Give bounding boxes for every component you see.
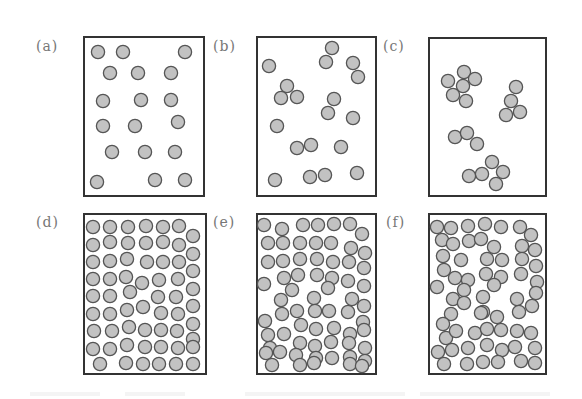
particle [116, 45, 129, 58]
particle [529, 259, 542, 272]
particle [154, 306, 167, 319]
particle [103, 66, 116, 79]
particle [514, 354, 527, 367]
particle-group-c [441, 65, 526, 190]
particle [171, 115, 184, 128]
particle [508, 340, 521, 353]
faint-caption-artifact [125, 392, 185, 396]
particle [515, 252, 528, 265]
particle [261, 328, 274, 341]
particle [154, 340, 167, 353]
particle [119, 356, 132, 369]
particle [325, 41, 338, 54]
particle [343, 217, 356, 230]
particle [487, 240, 500, 253]
particle [474, 306, 487, 319]
particle [120, 303, 133, 316]
particle [460, 357, 473, 370]
particle-group-b [262, 41, 364, 186]
particle [310, 268, 323, 281]
particle [186, 357, 199, 370]
particle [461, 341, 474, 354]
faint-caption-artifact [30, 392, 100, 396]
particle [123, 285, 136, 298]
particle [86, 272, 99, 285]
particle [357, 323, 370, 336]
particle [86, 289, 99, 302]
particle [346, 56, 359, 69]
particle [355, 359, 368, 372]
particle [178, 45, 191, 58]
particle [358, 341, 371, 354]
particle [171, 272, 184, 285]
particle [257, 277, 270, 290]
particle [121, 220, 134, 233]
particle [103, 307, 116, 320]
particle [480, 322, 493, 335]
particle [327, 217, 340, 230]
particle [86, 255, 99, 268]
particle [478, 217, 491, 230]
particle [321, 281, 334, 294]
particle [342, 336, 355, 349]
particle [324, 335, 337, 348]
particle [528, 356, 541, 369]
particle [495, 253, 508, 266]
particle [459, 94, 472, 107]
particle [139, 236, 152, 249]
particle [258, 314, 271, 327]
particle [270, 119, 283, 132]
particle [296, 218, 309, 231]
particle [308, 304, 321, 317]
particle [139, 219, 152, 232]
particle [186, 340, 199, 353]
particle [151, 290, 164, 303]
particle [138, 323, 151, 336]
faint-caption-artifact [420, 392, 550, 396]
particle [309, 322, 322, 335]
particle [309, 236, 322, 249]
particle [91, 45, 104, 58]
particle [265, 358, 278, 371]
particle-group-e [257, 217, 371, 372]
particle [446, 88, 459, 101]
particle [431, 345, 444, 358]
particle [327, 321, 340, 334]
particle [103, 254, 116, 267]
particle [358, 246, 371, 259]
particle [528, 243, 541, 256]
particle [136, 357, 149, 370]
particle [446, 237, 459, 250]
particle [140, 255, 153, 268]
particle [491, 355, 504, 368]
particle [138, 145, 151, 158]
particle [290, 304, 303, 317]
particle [509, 80, 522, 93]
particle [290, 90, 303, 103]
particle [341, 274, 354, 287]
particle-group-a [90, 45, 191, 188]
particle-group-d [86, 219, 199, 370]
particle [334, 140, 347, 153]
particle [515, 239, 528, 252]
particle [504, 94, 517, 107]
particle [86, 342, 99, 355]
particle [457, 296, 470, 309]
particle [357, 279, 370, 292]
particle [105, 324, 118, 337]
particle [293, 252, 306, 265]
particle [96, 94, 109, 107]
particle [120, 252, 133, 265]
particle [156, 255, 169, 268]
particle [529, 286, 542, 299]
particle [341, 305, 354, 318]
particle [513, 105, 526, 118]
particle [307, 291, 320, 304]
particle [462, 234, 475, 247]
particle [357, 261, 370, 274]
particle [164, 66, 177, 79]
particle [319, 55, 332, 68]
particle [285, 283, 298, 296]
particle [105, 145, 118, 158]
particle [156, 235, 169, 248]
